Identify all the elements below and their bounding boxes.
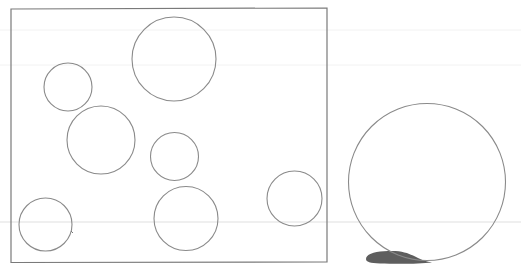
circle-bottom-center-medium xyxy=(154,187,218,251)
circle-outer-right-large xyxy=(349,104,506,261)
circle-right-small xyxy=(267,171,322,226)
shadow-blob xyxy=(366,251,432,264)
circle-mid-left-medium xyxy=(67,106,135,174)
boundary-rectangle xyxy=(11,8,327,263)
tick-mark xyxy=(71,231,73,233)
circle-upper-left-small xyxy=(44,63,92,111)
circle-bottom-left-small xyxy=(19,198,72,251)
diagram-canvas xyxy=(0,0,521,271)
circle-center-small xyxy=(151,133,199,181)
